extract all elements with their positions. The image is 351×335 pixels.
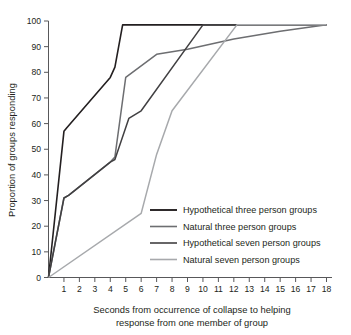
x-tick-label: 5: [123, 284, 128, 294]
y-tick-label: 30: [31, 196, 41, 206]
y-tick-label: 50: [31, 144, 41, 154]
x-tick-label: 11: [214, 284, 223, 294]
x-tick-label: 12: [229, 284, 239, 294]
x-axis-label-line1: Seconds from occurrence of collapse to h…: [93, 304, 291, 315]
x-tick-label: 18: [322, 284, 332, 294]
x-tick-group: 123456789101112131415161718: [62, 278, 332, 295]
x-tick-label: 2: [77, 284, 82, 294]
x-tick-label: 6: [139, 284, 144, 294]
y-tick-label: 90: [31, 42, 41, 52]
x-axis-label-line2: response from one member of group: [116, 317, 268, 328]
x-tick-label: 9: [185, 284, 190, 294]
x-tick-label: 16: [291, 284, 301, 294]
legend-label-2: Natural three person groups: [183, 222, 297, 232]
x-tick-label: 7: [154, 284, 159, 294]
legend-label-4: Natural seven person groups: [183, 255, 300, 265]
y-tick-label: 100: [27, 16, 42, 26]
y-tick-group: 0102030405060708090100: [27, 16, 49, 283]
y-tick-label: 0: [36, 273, 41, 283]
x-tick-label: 14: [260, 284, 270, 294]
x-tick-label: 3: [92, 284, 97, 294]
x-tick-label: 17: [306, 284, 316, 294]
legend-label-3: Hypothetical seven person groups: [183, 238, 321, 248]
y-tick-label: 10: [31, 247, 41, 257]
x-tick-label: 1: [62, 284, 67, 294]
y-tick-label: 70: [31, 93, 41, 103]
y-tick-label: 60: [31, 119, 41, 129]
x-tick-label: 13: [244, 284, 254, 294]
legend-label-1: Hypothetical three person groups: [183, 205, 317, 215]
y-tick-label: 40: [31, 170, 41, 180]
line-chart: Proportion of groups responding 01020304…: [0, 0, 351, 335]
x-tick-label: 10: [198, 284, 208, 294]
y-tick-label: 80: [31, 67, 41, 77]
y-tick-label: 20: [31, 221, 41, 231]
y-axis-label: Proportion of groups responding: [6, 83, 17, 217]
x-tick-label: 15: [275, 284, 285, 294]
chart-container: Proportion of groups responding 01020304…: [0, 0, 351, 335]
chart-legend: Hypothetical three person groupsNatural …: [150, 205, 321, 265]
x-tick-label: 4: [108, 284, 113, 294]
x-tick-label: 8: [170, 284, 175, 294]
